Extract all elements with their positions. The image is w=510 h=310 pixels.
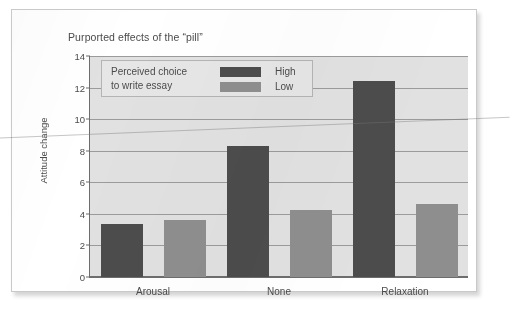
- y-tick-label: 2: [80, 240, 85, 251]
- y-tick-label: 12: [74, 83, 85, 94]
- bar-arousal-low: [164, 220, 206, 277]
- chart-title: Purported effects of the “pill”: [68, 31, 203, 43]
- y-tick-label: 4: [80, 209, 85, 220]
- gridline: [90, 119, 468, 120]
- chart-card: Purported effects of the “pill” Attitude…: [11, 9, 477, 292]
- gridline: [90, 182, 468, 183]
- y-tick-label: 14: [74, 51, 85, 62]
- x-category-label: Relaxation: [381, 286, 428, 297]
- y-tick-mark: [86, 277, 90, 278]
- gridline: [90, 276, 468, 277]
- y-axis-label: Attitude change: [38, 96, 49, 206]
- gridline: [90, 245, 468, 246]
- y-tick-mark: [86, 214, 90, 215]
- legend-title: Perceived choice to write essay: [111, 65, 187, 93]
- y-tick-mark: [86, 245, 90, 246]
- bar-none-high: [227, 146, 269, 277]
- y-tick-mark: [86, 151, 90, 152]
- bar-relaxation-low: [416, 204, 458, 277]
- y-tick-mark: [86, 182, 90, 183]
- y-tick-label: 8: [80, 146, 85, 157]
- y-tick-mark: [86, 119, 90, 120]
- legend-swatch-low-icon: [220, 82, 261, 92]
- y-tick-mark: [86, 88, 90, 89]
- x-category-label: None: [267, 286, 291, 297]
- y-tick-mark: [86, 56, 90, 57]
- y-tick-label: 0: [80, 272, 85, 283]
- gridline: [90, 56, 468, 57]
- bar-relaxation-high: [353, 81, 395, 277]
- legend-swatch-high-icon: [220, 67, 261, 77]
- chart-legend: Perceived choice to write essay High Low: [101, 60, 313, 97]
- bar-none-low: [290, 210, 332, 277]
- bar-arousal-high: [101, 224, 143, 277]
- legend-label-high: High: [275, 65, 296, 79]
- x-category-label: Arousal: [136, 286, 170, 297]
- y-tick-label: 6: [80, 177, 85, 188]
- plot-area: 02468101214 ArousalNoneRelaxation Percei…: [89, 56, 468, 278]
- gridline: [90, 151, 468, 152]
- gridline: [90, 214, 468, 215]
- legend-label-low: Low: [275, 80, 293, 94]
- y-tick-label: 10: [74, 114, 85, 125]
